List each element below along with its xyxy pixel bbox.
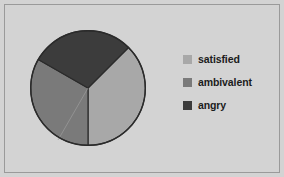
legend-item-satisfied[interactable]: satisfied xyxy=(183,48,279,70)
legend-item-ambivalent[interactable]: ambivalent xyxy=(183,71,279,93)
legend-swatch-angry xyxy=(183,101,192,110)
chart-plot-area: satisfied ambivalent angry xyxy=(0,0,284,177)
chart-legend: satisfied ambivalent angry xyxy=(183,48,279,117)
legend-label-ambivalent: ambivalent xyxy=(198,77,252,88)
legend-swatch-satisfied xyxy=(183,55,192,64)
legend-label-satisfied: satisfied xyxy=(198,54,240,65)
pie-chart-figure: satisfied ambivalent angry xyxy=(0,0,284,177)
legend-swatch-ambivalent xyxy=(183,78,192,87)
legend-label-angry: angry xyxy=(198,100,226,111)
legend-item-angry[interactable]: angry xyxy=(183,94,279,116)
pie-chart xyxy=(28,28,148,148)
